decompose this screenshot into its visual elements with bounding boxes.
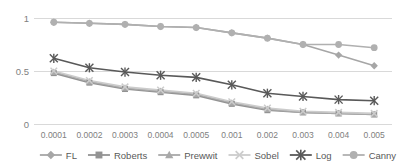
legend-item-roberts[interactable]: Roberts [88,150,148,161]
data-point-marker [335,51,342,58]
data-point-marker [371,62,378,69]
data-point-marker [335,41,342,48]
legend-label: Sobel [254,150,278,161]
data-point-marker [96,152,103,159]
data-point-marker [300,41,307,48]
series-line-prewwit [54,72,374,114]
data-point-marker [50,19,57,26]
y-tick-label: 0 [24,119,29,130]
series-markers-roberts [51,70,377,117]
series-line-canny [54,22,374,47]
data-point-marker [350,151,358,159]
legend-item-sobel[interactable]: Sobel [228,150,278,161]
data-point-marker [47,151,56,160]
series-line-roberts [54,73,374,114]
legend-label: FL [66,150,77,161]
legend-item-fl[interactable]: FL [40,150,77,161]
data-point-marker [122,21,129,28]
series-lines-group [54,22,374,114]
data-point-marker [228,29,235,36]
y-axis-tick-labels: 00.51 [16,13,29,130]
x-tick-label: 0.0003 [112,130,138,140]
chart-legend: FLRobertsPrewwitSobelLogCanny [40,150,397,161]
legend-item-log[interactable]: Log [290,150,332,161]
chart-container: 00.51 0.00010.00020.00030.00040.00050.00… [0,0,399,168]
legend-label: Prewwit [184,150,218,161]
series-markers-sobel [51,68,378,117]
x-tick-label: 0.0002 [76,130,102,140]
legend-label: Log [316,150,332,161]
x-tick-label: 0.004 [328,130,350,140]
x-tick-label: 0.003 [292,130,314,140]
data-point-marker [86,20,93,27]
legend-label: Canny [369,150,397,161]
series-line-sobel [54,71,374,113]
line-chart: 00.51 0.00010.00020.00030.00040.00050.00… [0,0,399,168]
data-point-marker [193,24,200,31]
legend-item-canny[interactable]: Canny [343,150,397,161]
x-tick-label: 0.002 [257,130,279,140]
y-tick-label: 0.5 [16,66,29,77]
x-tick-label: 0.0005 [183,130,209,140]
data-point-marker [371,44,378,51]
data-point-marker [157,23,164,30]
series-line-log [54,58,374,100]
legend-label: Roberts [114,150,148,161]
x-tick-label: 0.0004 [148,130,174,140]
series-markers-group [50,19,378,118]
data-point-marker [264,35,271,42]
series-markers-prewwit [50,68,378,117]
legend-item-prewwit[interactable]: Prewwit [158,150,218,161]
x-tick-label: 0.005 [364,130,386,140]
gridlines [34,18,392,124]
x-tick-label: 0.001 [221,130,243,140]
y-tick-label: 1 [24,13,29,24]
x-tick-label: 0.0001 [41,130,67,140]
x-axis-tick-labels: 0.00010.00020.00030.00040.00050.0010.002… [41,130,385,140]
